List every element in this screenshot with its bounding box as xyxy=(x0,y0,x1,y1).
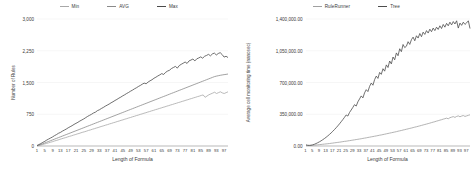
series-line-rulerunner xyxy=(306,115,470,146)
series-line-min xyxy=(37,92,228,146)
x-tick-label: 97 xyxy=(460,148,472,153)
y-tick-label: 1,500 xyxy=(23,80,35,85)
y-tick-label: 3,000 xyxy=(23,17,35,22)
series-line-tree xyxy=(306,21,470,146)
dual-chart-figure: MinAVGMax Number of Rules 07501,5002,250… xyxy=(0,0,475,183)
y-tick-label: 700,000.00 xyxy=(280,80,303,85)
y-tick-label: 750 xyxy=(26,112,34,117)
y-tick-label: 350,000.00 xyxy=(280,112,303,117)
y-tick-label: 1,400,000.00 xyxy=(276,17,303,22)
series-line-max xyxy=(37,53,228,146)
x-axis-title-right: Length of Formula xyxy=(306,156,470,162)
chart-panel-number-of-rules: MinAVGMax Number of Rules 07501,5002,250… xyxy=(0,0,238,183)
y-tick-label: 2,250 xyxy=(23,48,35,53)
y-tick-label: 1,050,000.00 xyxy=(276,48,303,53)
x-axis-title-left: Length of Formula xyxy=(37,156,228,162)
series-line-avg xyxy=(37,74,228,146)
x-tick-label: 97 xyxy=(218,148,230,153)
chart-panel-monitoring-time: RuleRunnerTree Average cell monitoring t… xyxy=(238,0,475,183)
